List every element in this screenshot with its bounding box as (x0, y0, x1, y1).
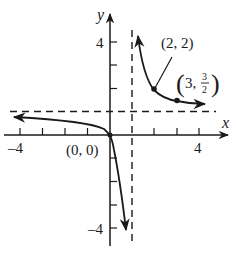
point-3-1.5 (174, 98, 180, 104)
x-axis-label: x (221, 114, 229, 131)
y-tick-label-4: 4 (96, 35, 104, 51)
x-tick-label-4: 4 (194, 140, 202, 156)
point-label-3-x: 3, (185, 75, 196, 91)
graph-canvas: y x 4 –4 –4 4 (0, 0) (2, 2) ( 3, 3 2 ) (0, 0, 236, 253)
x-tick-label-neg4: –4 (7, 140, 24, 156)
paren-open-large: ( (176, 69, 185, 98)
fraction-numerator: 3 (202, 71, 207, 82)
fraction-denominator: 2 (202, 84, 207, 95)
y-axis-label: y (95, 6, 105, 24)
point-label-3-frac: ( 3, 3 2 ) (176, 69, 220, 98)
leader-line-2-2 (155, 57, 172, 88)
point-label-origin: (0, 0) (66, 142, 99, 159)
point-label-2-2: (2, 2) (161, 35, 194, 52)
y-tick-label-neg4: –4 (87, 221, 104, 237)
paren-close-large: ) (211, 69, 220, 98)
point-origin (108, 133, 113, 138)
